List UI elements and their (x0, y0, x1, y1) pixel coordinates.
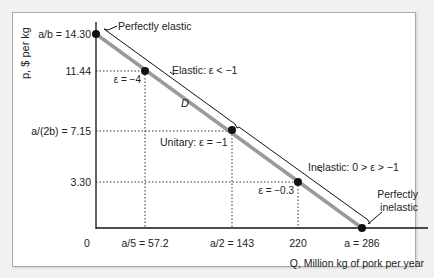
perfectly-elastic-label: Perfectly elastic (118, 20, 192, 32)
y-tick-label: 11.44 (66, 65, 92, 77)
unitary-label: Unitary: ε = −1 (160, 136, 228, 148)
x-axis-label: Q, Million kg of pork per year (290, 257, 425, 269)
x-tick-label: a/5 = 57.2 (122, 237, 169, 249)
guide-lines (96, 71, 298, 228)
x-tick-label: a/2 = 143 (210, 237, 254, 249)
curve-label: D (181, 97, 189, 109)
perfectly-inelastic-label-1: Perfectly (377, 188, 419, 200)
y-tick-label: a/(2b) = 7.15 (31, 125, 91, 137)
x-tick-label: 220 (289, 237, 307, 249)
epsilon-03-label: ε = −0.3 (258, 185, 294, 196)
region-brackets (104, 26, 382, 224)
elastic-label: Elastic: ε < −1 (172, 64, 238, 76)
y-tick-label: 3.30 (71, 176, 92, 188)
y-axis-label: p, $ per kg (19, 27, 31, 79)
y-tick-label: a/b = 14.30 (38, 28, 91, 40)
elasticity-chart: p, $ per kg a/b = 14.30 11.44 a/(2b) = 7… (0, 0, 434, 278)
x-tick-label: 0 (84, 237, 90, 249)
epsilon-4-label: ε = −4 (114, 74, 142, 85)
perfectly-inelastic-label-2: inelastic (380, 201, 418, 213)
inelastic-label: Inelastic: 0 > ε > −1 (308, 161, 399, 173)
x-tick-label: a = 286 (344, 237, 379, 249)
